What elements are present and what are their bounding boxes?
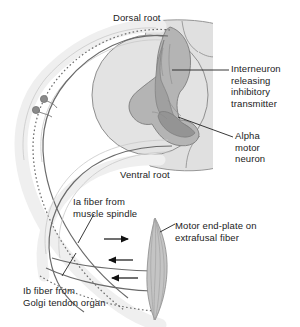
leader-motor-end-plate [160,224,175,232]
extrafusal-muscle-fiber [147,218,167,320]
label-dorsal-root: Dorsal root [113,12,161,24]
label-ia-fiber: Ia fiber from muscle spindle [73,196,137,219]
label-ib-fiber: Ib fiber from Golgi tendon organ [23,285,106,308]
label-interneuron: Interneuron releasing inhibitory transmi… [231,63,281,109]
figure-canvas: Dorsal root Ventral root Interneuron rel… [0,0,300,327]
label-ventral-root: Ventral root [120,169,170,181]
label-motor-end-plate: Motor end-plate on extrafusal fiber [175,220,257,243]
label-alpha-motor-neuron: Alpha motor neuron [235,130,265,165]
direction-arrows [104,239,138,278]
